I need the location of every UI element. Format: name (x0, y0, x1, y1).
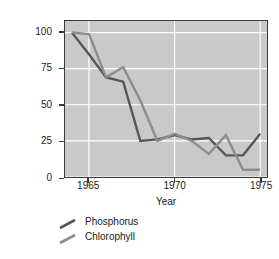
legend-label: Chlorophyll (85, 232, 135, 242)
y-tick-label: 25 (26, 136, 52, 146)
y-tick-label: 100 (26, 27, 52, 37)
chart-legend: PhosphorusChlorophyll (58, 214, 138, 244)
y-tick-label: 0 (26, 173, 52, 183)
legend-label: Phosphorus (85, 217, 138, 227)
x-tick-mark (260, 178, 262, 183)
plot-area (64, 20, 268, 178)
legend-swatch-icon (58, 231, 78, 243)
legend-swatch-icon (58, 216, 78, 228)
y-tick-label: 50 (26, 100, 52, 110)
legend-item-chlorophyll: Chlorophyll (58, 229, 138, 244)
chart-figure: Percent of maximum level (the year 1964 … (0, 0, 279, 259)
legend-item-phosphorus: Phosphorus (58, 214, 138, 229)
y-tick-label: 75 (26, 63, 52, 73)
series-line-chlorophyll (72, 33, 260, 170)
x-axis-title: Year (64, 196, 268, 207)
x-tick-mark (174, 178, 176, 183)
x-tick-mark (87, 178, 89, 183)
data-series-layer (65, 21, 267, 177)
